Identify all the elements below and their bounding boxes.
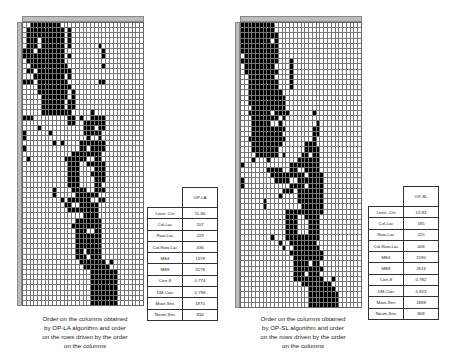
matrix-cell — [106, 141, 109, 145]
matrix-cell — [302, 194, 305, 198]
matrix-cell — [358, 80, 361, 84]
matrix-cell — [99, 157, 102, 161]
matrix-cell — [298, 158, 301, 162]
matrix-cell — [118, 244, 121, 248]
matrix-cell — [68, 85, 71, 89]
matrix-cell — [121, 249, 124, 253]
matrix-cell — [302, 64, 305, 68]
matrix-cell — [23, 121, 26, 125]
matrix-cell — [283, 282, 286, 286]
matrix-cell — [328, 225, 331, 229]
matrix-cell — [68, 54, 71, 58]
matrix-cell — [328, 272, 331, 276]
matrix-cell — [298, 184, 301, 188]
matrix-cell — [38, 213, 41, 217]
matrix-cell — [343, 298, 346, 302]
matrix-cell — [136, 229, 139, 233]
matrix-cell — [118, 85, 121, 89]
matrix-cell — [347, 256, 350, 260]
matrix-cell — [283, 298, 286, 302]
matrix-cell — [61, 59, 64, 63]
matrix-cell — [133, 152, 136, 156]
matrix-cell — [76, 146, 79, 150]
matrix-cell — [110, 131, 113, 135]
matrix-cell — [49, 177, 52, 181]
matrix-cell — [46, 285, 49, 289]
matrix-cell — [129, 100, 132, 104]
matrix-cell — [61, 146, 64, 150]
matrix-cell — [245, 267, 248, 271]
matrix-cell — [91, 38, 94, 42]
matrix-cell — [31, 219, 34, 223]
matrix-cell — [245, 189, 248, 193]
matrix-cell — [129, 157, 132, 161]
matrix-cell — [351, 199, 354, 203]
matrix-cell — [305, 215, 308, 219]
matrix-cell — [65, 219, 68, 223]
matrix-cell — [305, 75, 308, 79]
matrix-cell — [317, 44, 320, 48]
matrix-cell — [267, 272, 270, 276]
matrix-cell — [283, 111, 286, 115]
matrix-cell — [302, 127, 305, 131]
matrix-cell — [106, 177, 109, 181]
matrix-cell — [336, 44, 339, 48]
matrix-cell — [309, 303, 312, 307]
matrix-cell — [110, 249, 113, 253]
matrix-cell — [294, 96, 297, 100]
matrix-cell — [129, 23, 132, 27]
matrix-cell — [129, 301, 132, 305]
matrix-cell — [118, 59, 121, 63]
matrix-cell — [286, 106, 289, 110]
matrix-cell — [61, 249, 64, 253]
matrix-cell — [256, 96, 259, 100]
matrix-cell — [309, 246, 312, 250]
matrix-cell — [72, 23, 75, 27]
matrix-cell — [351, 153, 354, 157]
matrix-cell — [114, 38, 117, 42]
matrix-cell — [99, 177, 102, 181]
matrix-cell — [249, 178, 252, 182]
matrix-cell — [249, 127, 252, 131]
matrix-cell — [95, 275, 98, 279]
matrix-cell — [294, 163, 297, 167]
matrix-cell — [249, 153, 252, 157]
matrix-cell — [42, 265, 45, 269]
matrix-cell — [249, 111, 252, 115]
matrix-cell — [264, 90, 267, 94]
matrix-cell — [95, 146, 98, 150]
matrix-cell — [91, 74, 94, 78]
matrix-cell — [241, 298, 244, 302]
matrix-cell — [34, 33, 37, 37]
matrix-cell — [31, 229, 34, 233]
matrix-cell — [264, 215, 267, 219]
matrix-cell — [99, 64, 102, 68]
matrix-cell — [38, 100, 41, 104]
matrix-cell — [275, 137, 278, 141]
matrix-cell — [339, 127, 342, 131]
matrix-cell — [129, 126, 132, 130]
matrix-cell — [264, 127, 267, 131]
matrix-cell — [294, 75, 297, 79]
matrix-cell — [102, 188, 105, 192]
matrix-cell — [343, 121, 346, 125]
matrix-cell — [102, 95, 105, 99]
matrix-cell — [80, 255, 83, 259]
matrix-cell — [351, 178, 354, 182]
matrix-cell — [129, 136, 132, 140]
matrix-cell — [129, 219, 132, 223]
matrix-cell — [72, 116, 75, 120]
metric-label: Col-Row-Lac — [369, 240, 404, 251]
matrix-cell — [328, 277, 331, 281]
matrix-cell — [279, 142, 282, 146]
matrix-cell — [275, 272, 278, 276]
matrix-cell — [99, 265, 102, 269]
matrix-cell — [136, 131, 139, 135]
matrix-cell — [241, 267, 244, 271]
matrix-cell — [129, 249, 132, 253]
matrix-cell — [256, 137, 259, 141]
matrix-cell — [49, 157, 52, 161]
matrix-cell — [57, 275, 60, 279]
matrix-cell — [264, 158, 267, 162]
metric-label: DM-Corr — [369, 286, 404, 297]
